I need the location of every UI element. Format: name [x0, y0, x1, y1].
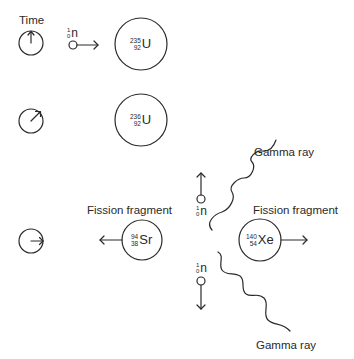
- fission-fragment-right-label: Fission fragment: [253, 204, 338, 216]
- clock-icon-stage-2: [19, 109, 43, 133]
- u235-mass: 235: [130, 37, 141, 44]
- incoming-neutron: [69, 41, 98, 49]
- neutron-down-symbol: 10 n: [196, 262, 207, 274]
- sr94-atomic: 38: [131, 240, 138, 247]
- gamma-ray-top-label: Gamma ray: [254, 146, 314, 158]
- neutron-down: [197, 277, 205, 309]
- u235-atomic: 92: [130, 44, 141, 51]
- u236-element: U: [142, 112, 151, 127]
- clock-icon-stage-3: [19, 229, 43, 253]
- time-label: Time: [19, 14, 44, 26]
- xe140-atomic: 54: [246, 240, 257, 247]
- clock-icon-stage-1: [19, 31, 43, 55]
- incoming-neutron-symbol: 10 n: [67, 27, 78, 39]
- xe140-element: Xe: [258, 232, 274, 247]
- fission-diagram: [0, 0, 354, 359]
- neutron-atomic: 0: [196, 268, 199, 274]
- u236-symbol: 23692 U: [130, 112, 151, 127]
- neutron-letter: n: [200, 262, 207, 274]
- gamma-ray-wave-bottom: [218, 252, 290, 331]
- gamma-ray-bottom-label: Gamma ray: [256, 339, 316, 351]
- sr94-mass: 94: [131, 233, 138, 240]
- neutron-letter: n: [71, 27, 78, 39]
- xe140-mass: 140: [246, 233, 257, 240]
- neutron-letter: n: [200, 205, 207, 217]
- u236-atomic: 92: [130, 120, 141, 127]
- neutron-atomic: 0: [196, 211, 199, 217]
- neutron-atomic: 0: [67, 33, 70, 39]
- u235-element: U: [142, 36, 151, 51]
- u236-mass: 236: [130, 113, 141, 120]
- fission-fragment-left-label: Fission fragment: [87, 204, 172, 216]
- neutron-up-symbol: 10 n: [196, 205, 207, 217]
- sr94-element: Sr: [139, 232, 152, 247]
- xe140-symbol: 14054 Xe: [246, 232, 274, 247]
- u235-symbol: 23592 U: [130, 36, 151, 51]
- sr94-symbol: 9438 Sr: [131, 232, 152, 247]
- neutron-up: [197, 173, 205, 203]
